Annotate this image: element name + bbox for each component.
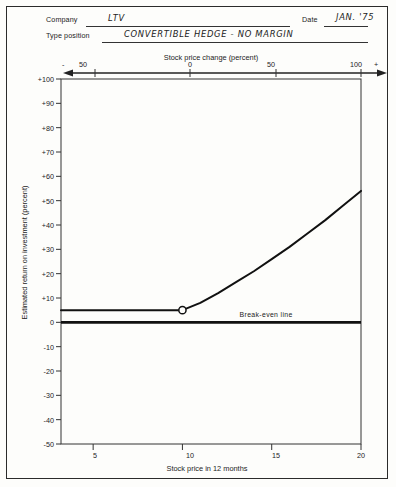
- plot-frame: [61, 79, 361, 444]
- return-chart: Stock price change (percent) Stock price…: [0, 0, 396, 487]
- plot-area: [0, 0, 396, 487]
- top-axis-left-arrow: [63, 70, 73, 77]
- curve-marker-point[interactable]: [179, 307, 186, 314]
- top-axis-right-arrow: [377, 70, 387, 77]
- return-curve: [61, 191, 361, 310]
